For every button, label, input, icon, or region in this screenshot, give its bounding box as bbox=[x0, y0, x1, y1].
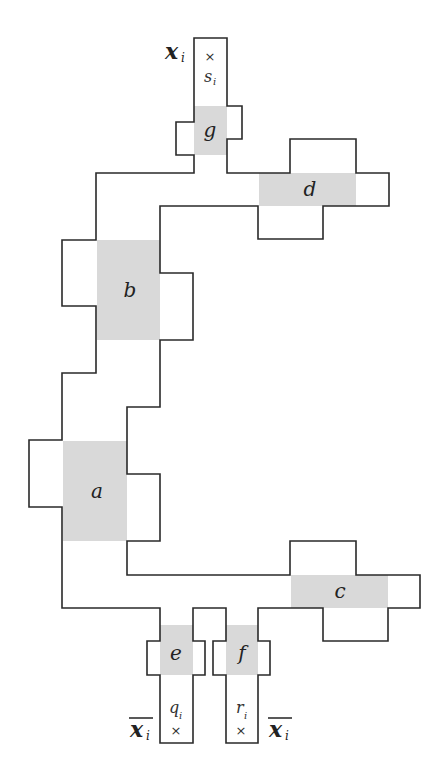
region-e-label: e bbox=[170, 641, 182, 665]
region-g-label: g bbox=[204, 118, 217, 142]
variable-x-subscript: i bbox=[181, 51, 185, 65]
region-a-label: a bbox=[91, 479, 103, 503]
variable-gadget-diagram: g d b a c e f x i × s i x i q i × r i × … bbox=[0, 0, 447, 781]
point-s-marker-icon: × bbox=[205, 49, 216, 64]
point-q-label: q bbox=[169, 698, 179, 717]
region-c-label: c bbox=[334, 579, 345, 603]
variable-not-x-subscript-right: i bbox=[285, 729, 289, 743]
point-q-subscript: i bbox=[179, 710, 182, 721]
variable-not-x-subscript-left: i bbox=[146, 729, 150, 743]
region-d-label: d bbox=[304, 177, 317, 201]
point-q-marker-icon: × bbox=[171, 723, 182, 738]
terminal-top: x i × s i bbox=[164, 38, 216, 87]
variable-not-x-label-right: x bbox=[268, 716, 283, 742]
variable-not-x-label-left: x bbox=[129, 716, 144, 742]
point-r-marker-icon: × bbox=[236, 723, 247, 738]
point-s-label: s bbox=[204, 67, 212, 86]
point-r-subscript: i bbox=[244, 710, 247, 721]
terminal-bottom-left: x i q i × bbox=[129, 698, 182, 743]
variable-x-label: x bbox=[164, 38, 179, 64]
point-s-subscript: i bbox=[213, 76, 216, 87]
region-b-label: b bbox=[124, 278, 137, 302]
terminal-bottom-right: r i × x i bbox=[236, 698, 292, 743]
